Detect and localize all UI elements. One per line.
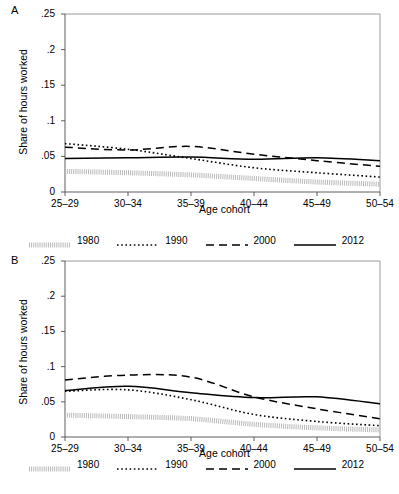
series-line-1980 (65, 415, 380, 430)
y-tick-label: .15 (27, 80, 55, 90)
x-tick-label: 25–29 (42, 444, 88, 454)
legend-label-2000-b: 2000 (254, 460, 276, 470)
y-tick-label: .05 (27, 151, 55, 161)
legend-item-2000-a[interactable]: 2000 (206, 236, 276, 246)
y-tick-label: .05 (27, 397, 55, 407)
y-tick-label: .2 (27, 291, 55, 301)
legend-swatch-2000-a (206, 236, 248, 246)
y-tick-label: 0 (27, 432, 55, 442)
series-line-2000 (65, 146, 380, 166)
legend-label-1980-b: 1980 (77, 460, 99, 470)
x-tick-label: 30–34 (105, 444, 151, 454)
legend-a: 1980 1990 2000 2012 (0, 231, 393, 251)
legend-swatch-2012-b (294, 460, 336, 470)
series-line-2000 (65, 375, 380, 419)
x-tick-label: 40–44 (231, 199, 277, 209)
legend-label-1990-b: 1990 (165, 460, 187, 470)
y-tick-label: .1 (27, 362, 55, 372)
legend-item-2012-a[interactable]: 2012 (294, 236, 364, 246)
legend-item-2000-b[interactable]: 2000 (206, 460, 276, 470)
x-tick-label: 35–39 (168, 444, 214, 454)
legend-item-1980-a[interactable]: 1980 (29, 236, 99, 246)
x-tick-label: 50–54 (357, 444, 399, 454)
legend-item-2012-b[interactable]: 2012 (294, 460, 364, 470)
legend-swatch-1990-b (117, 460, 159, 470)
legend-label-2000-a: 2000 (254, 236, 276, 246)
legend-swatch-2012-a (294, 236, 336, 246)
series-line-2012 (65, 157, 380, 161)
y-tick-label: .1 (27, 116, 55, 126)
legend-swatch-1990-a (117, 236, 159, 246)
legend-label-1980-a: 1980 (77, 236, 99, 246)
x-tick-label: 30–34 (105, 199, 151, 209)
y-tick-label: .15 (27, 326, 55, 336)
y-tick-label: .25 (27, 9, 55, 19)
chart-panel-a: A Share of hours worked Age cohort 0.05.… (0, 0, 393, 250)
legend-b: 1980 1990 2000 2012 (0, 455, 393, 475)
plot-area-b (0, 250, 393, 470)
x-tick-label: 45–49 (294, 199, 340, 209)
legend-item-1990-b[interactable]: 1990 (117, 460, 187, 470)
legend-label-2012-b: 2012 (342, 460, 364, 470)
legend-item-1980-b[interactable]: 1980 (29, 460, 99, 470)
y-tick-label: 0 (27, 187, 55, 197)
x-tick-label: 50–54 (357, 199, 399, 209)
legend-swatch-2000-b (206, 460, 248, 470)
y-tick-label: .25 (27, 256, 55, 266)
x-tick-label: 40–44 (231, 444, 277, 454)
legend-item-1990-a[interactable]: 1990 (117, 236, 187, 246)
legend-swatch-1980-a (29, 236, 71, 246)
x-tick-label: 45–49 (294, 444, 340, 454)
x-tick-label: 35–39 (168, 199, 214, 209)
legend-swatch-1980-b (29, 460, 71, 470)
legend-label-2012-a: 2012 (342, 236, 364, 246)
y-tick-label: .2 (27, 45, 55, 55)
legend-label-1990-a: 1990 (165, 236, 187, 246)
plot-area-a (0, 0, 393, 225)
x-tick-label: 25–29 (42, 199, 88, 209)
